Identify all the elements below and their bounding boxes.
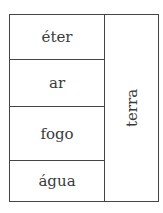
terra-label: terra — [123, 89, 141, 127]
cell-fogo: fogo — [10, 107, 104, 161]
cell-label: éter — [42, 28, 73, 46]
cell-ar: ar — [10, 60, 104, 107]
left-column: éter ar fogo água — [10, 15, 105, 201]
cell-label: água — [38, 172, 75, 190]
right-column-terra: terra — [105, 15, 159, 201]
cell-label: ar — [49, 74, 65, 92]
elements-diagram: éter ar fogo água terra — [9, 14, 159, 202]
cell-eter: éter — [10, 15, 104, 60]
cell-label: fogo — [40, 125, 73, 143]
cell-agua: água — [10, 161, 104, 201]
